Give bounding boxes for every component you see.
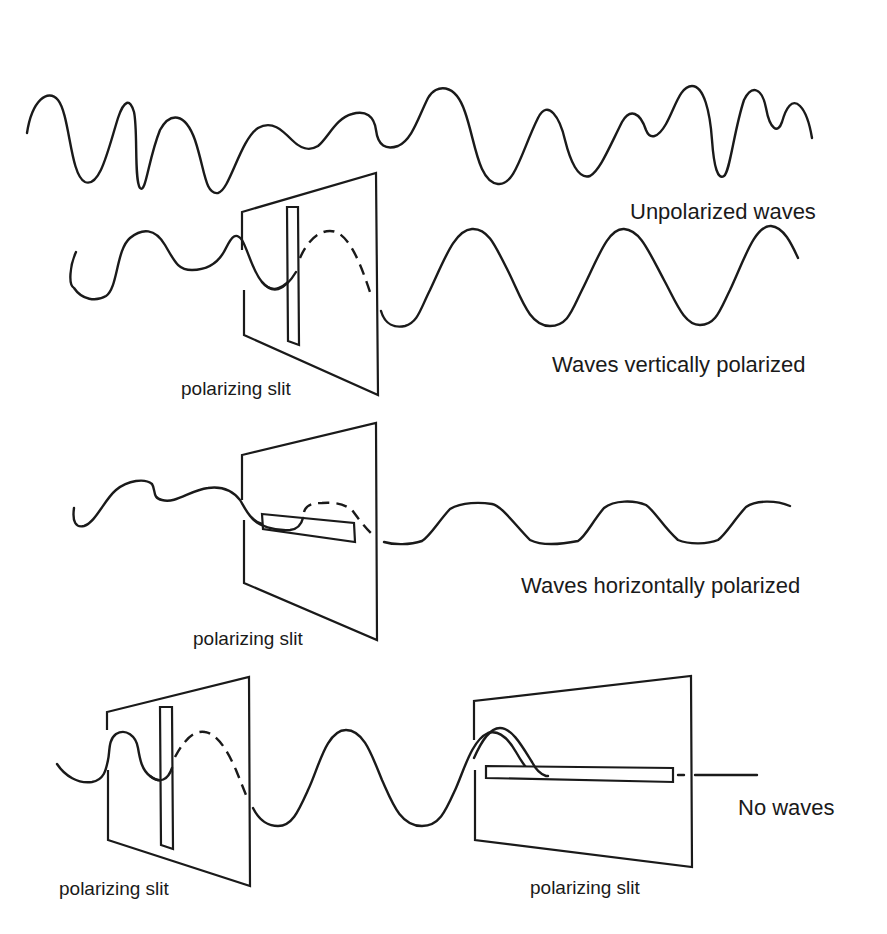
- outgoing-wave-vertical: [381, 226, 798, 327]
- slit-label-horizontal: polarizing slit: [193, 628, 304, 649]
- incoming-wave-vertical: [70, 231, 296, 299]
- incoming-wave-crossed: [57, 732, 172, 782]
- slit-label-second: polarizing slit: [530, 877, 641, 898]
- caption-horizontal: Waves horizontally polarized: [521, 573, 800, 598]
- horizontal-slit: [262, 514, 355, 542]
- caption-vertical: Waves vertically polarized: [552, 352, 806, 377]
- unpolarized-wave: [27, 86, 812, 193]
- polarization-diagram: Unpolarized waves polarizing slit Waves …: [0, 0, 887, 934]
- dashed-wave-behind-panel: [300, 231, 370, 292]
- section-crossed: polarizing slit polarizing slit No waves: [57, 676, 835, 899]
- slit-label-vertical: polarizing slit: [181, 378, 292, 399]
- dashed-wave-behind-first-panel: [175, 732, 248, 800]
- outgoing-wave-horizontal: [384, 502, 790, 545]
- section-unpolarized: Unpolarized waves: [27, 86, 816, 224]
- caption-unpolarized: Unpolarized waves: [630, 199, 816, 224]
- caption-crossed: No waves: [738, 795, 835, 820]
- section-horizontal: polarizing slit Waves horizontally polar…: [73, 423, 800, 649]
- polarizing-panel-first: [107, 677, 250, 886]
- second-horizontal-slit: [486, 766, 673, 782]
- slit-label-first: polarizing slit: [59, 878, 170, 899]
